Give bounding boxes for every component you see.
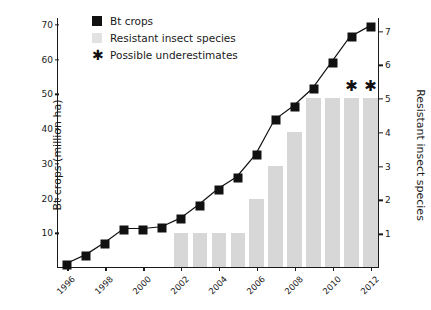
x-axis-tick-label: 1996 (55, 274, 77, 296)
x-axis-tick-label: 2000 (131, 274, 153, 296)
x-axis-tick-mark (295, 267, 296, 271)
data-point-marker (101, 239, 110, 248)
bar (231, 233, 246, 267)
y-axis-right-tick-label: 2 (378, 195, 411, 205)
bar (344, 98, 359, 267)
data-point-marker (177, 215, 186, 224)
plot-area: 1020304050607012345671996199820002002200… (57, 18, 379, 268)
data-point-marker (139, 225, 148, 234)
y-axis-left-tick-label: 60 (27, 55, 58, 65)
y-axis-left-tick-label: 20 (27, 194, 58, 204)
data-point-marker (82, 251, 91, 260)
x-axis-tick-mark (257, 267, 258, 271)
data-point-marker (366, 22, 375, 31)
plot-inner: 1020304050607012345671996199820002002200… (58, 18, 378, 267)
bar (287, 132, 302, 267)
y-axis-left-tick-label: 30 (27, 159, 58, 169)
bar (363, 98, 378, 267)
bt-crops-line-path (67, 27, 368, 263)
x-axis-tick-label: 2006 (245, 274, 267, 296)
x-axis-tick-label: 2012 (358, 274, 380, 296)
x-axis-tick-label: 1998 (93, 274, 115, 296)
y-axis-right-tick-label: 6 (378, 60, 411, 70)
y-axis-right-tick-label: 1 (378, 229, 411, 239)
data-point-marker (158, 224, 167, 233)
y-axis-right-tick-label: 7 (378, 27, 411, 37)
x-axis-tick-label: 2010 (320, 274, 342, 296)
asterisk-annotation: ✱ (345, 79, 358, 94)
bar (193, 233, 208, 267)
data-point-marker (215, 185, 224, 194)
y-axis-right-tick-label: 3 (378, 162, 411, 172)
y-axis-right-tick-label: 5 (378, 94, 411, 104)
x-axis-tick-mark (143, 267, 144, 271)
x-axis-tick-mark (333, 267, 334, 271)
data-point-marker (63, 260, 72, 269)
x-axis-tick-label: 2002 (169, 274, 191, 296)
bar (174, 233, 189, 267)
bar (325, 98, 340, 267)
x-axis-tick-label: 2004 (207, 274, 229, 296)
y-axis-left-tick-label: 10 (27, 228, 58, 238)
x-axis-tick-mark (219, 267, 220, 271)
x-axis-tick-mark (181, 267, 182, 271)
data-point-marker (120, 225, 129, 234)
y-axis-left-tick-label: 40 (27, 124, 58, 134)
data-point-marker (290, 102, 299, 111)
x-axis-tick-mark (371, 267, 372, 271)
data-point-marker (252, 151, 261, 160)
asterisk-annotation: ✱ (364, 79, 377, 94)
data-point-marker (328, 59, 337, 68)
y-axis-left-tick-label: 50 (27, 89, 58, 99)
x-axis-tick-label: 2008 (282, 274, 304, 296)
y-axis-right-tick-label: 4 (378, 128, 411, 138)
bar (268, 166, 283, 267)
bar (249, 199, 264, 267)
data-point-marker (233, 173, 242, 182)
bar (306, 98, 321, 267)
y-axis-left-tick-label: 70 (27, 20, 58, 30)
bar (212, 233, 227, 267)
x-axis-tick-mark (105, 267, 106, 271)
data-point-marker (271, 116, 280, 125)
data-point-marker (347, 33, 356, 42)
data-point-marker (309, 85, 318, 94)
y-axis-right-title: Resistant insect species (415, 89, 428, 221)
data-point-marker (196, 201, 205, 210)
chart-container: Bt crops Resistant insect species ✱ Poss… (0, 0, 431, 310)
